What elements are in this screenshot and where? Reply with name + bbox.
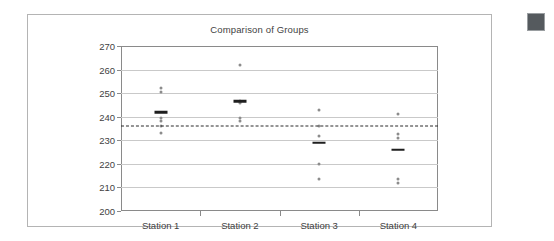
- gridline: [121, 93, 438, 94]
- data-point: [238, 63, 241, 66]
- data-point: [397, 181, 400, 184]
- data-point: [238, 120, 241, 123]
- y-tick-mark: [117, 187, 121, 188]
- y-tick-label: 250: [99, 88, 115, 99]
- y-tick-label: 260: [99, 64, 115, 75]
- x-tick-mark: [359, 211, 360, 216]
- data-point: [318, 108, 321, 111]
- data-point: [159, 90, 162, 93]
- y-tick-mark: [117, 93, 121, 94]
- y-tick-mark: [117, 211, 121, 212]
- gridline: [121, 117, 438, 118]
- grand-mean-line: [121, 126, 438, 127]
- x-category-label: Station 4: [380, 220, 418, 231]
- gridline: [121, 70, 438, 71]
- x-category-label: Station 2: [221, 220, 259, 231]
- y-tick-mark: [117, 140, 121, 141]
- group-mean-marker: [313, 141, 326, 144]
- data-point: [159, 132, 162, 135]
- y-tick-label: 240: [99, 111, 115, 122]
- y-tick-label: 220: [99, 158, 115, 169]
- legend-swatch-icon: [527, 13, 545, 31]
- data-point: [397, 136, 400, 139]
- data-point: [397, 113, 400, 116]
- x-category-label: Station 1: [142, 220, 180, 231]
- data-point: [318, 134, 321, 137]
- y-tick-mark: [117, 46, 121, 47]
- chart-card: Comparison of Groups 2002102202302402502…: [27, 14, 492, 227]
- data-point: [318, 162, 321, 165]
- data-point: [159, 120, 162, 123]
- data-point: [318, 178, 321, 181]
- group-mean-marker: [154, 111, 167, 114]
- group-mean-marker: [392, 148, 405, 151]
- y-tick-label: 270: [99, 41, 115, 52]
- chart-title: Comparison of Groups: [28, 24, 491, 35]
- y-tick-mark: [117, 164, 121, 165]
- plot-area: 200210220230240250260270 Station 1Statio…: [121, 46, 438, 211]
- x-tick-mark: [200, 211, 201, 216]
- y-tick-mark: [117, 70, 121, 71]
- y-tick-label: 230: [99, 135, 115, 146]
- y-tick-label: 210: [99, 182, 115, 193]
- plot-frame: [121, 46, 438, 211]
- gridline: [121, 187, 438, 188]
- group-mean-marker: [233, 100, 246, 103]
- y-tick-label: 200: [99, 206, 115, 217]
- gridline: [121, 140, 438, 141]
- x-category-label: Station 3: [300, 220, 338, 231]
- x-tick-mark: [280, 211, 281, 216]
- gridline: [121, 164, 438, 165]
- y-tick-mark: [117, 117, 121, 118]
